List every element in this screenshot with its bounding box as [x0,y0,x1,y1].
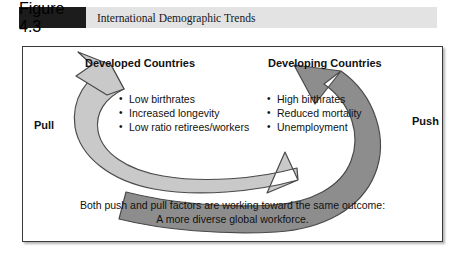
heading-developed-countries: Developed Countries [85,57,195,69]
diagram-caption: Both push and pull factors are working t… [23,199,442,226]
figure-title: International Demographic Trends [86,7,255,28]
list-item: Reduced mortality [267,106,362,120]
list-item: Low birthrates [119,92,249,106]
list-item: Unemployment [267,120,362,134]
caption-line-2: A more diverse global workforce. [23,213,442,227]
label-push: Push [412,115,439,127]
bullet-list-developed: Low birthrates Increased longevity Low r… [119,92,249,134]
label-pull: Pull [34,119,54,131]
figure-header: Figure 4.3 International Demographic Tre… [19,7,437,28]
bullet-list-developing: High birthrates Reduced mortality Unempl… [267,92,362,134]
figure-number-block: Figure 4.3 [19,7,86,28]
list-item: Increased longevity [119,106,249,120]
list-item: High birthrates [267,92,362,106]
figure-page: Figure 4.3 International Demographic Tre… [0,0,464,256]
caption-line-1: Both push and pull factors are working t… [23,199,442,213]
list-item: Low ratio retirees/workers [119,120,249,134]
figure-number-label: Figure 4.3 [19,0,86,36]
heading-developing-countries: Developing Countries [268,57,382,69]
diagram-frame: Developed Countries Developing Countries… [22,46,443,242]
